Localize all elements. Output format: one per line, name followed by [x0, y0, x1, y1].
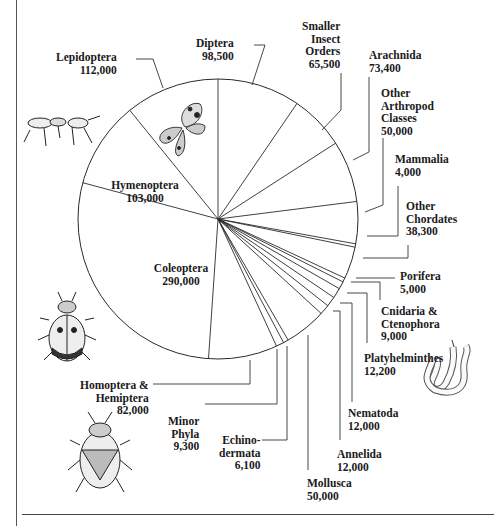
label-mollusca: Mollusca 50,000	[307, 477, 352, 502]
chart-frame: Lepidoptera 112,000 Diptera 98,500 Small…	[0, 0, 494, 526]
leader-echinodermata	[262, 346, 287, 440]
label-other-chordates: Other Chordates 38,300	[406, 200, 457, 238]
leader-other-chordates-2	[363, 245, 408, 258]
leader-other-chordates	[367, 186, 398, 236]
label-smaller-insect-orders: Smaller Insect Orders 65,500	[302, 20, 340, 70]
leader-lepidoptera	[136, 59, 163, 88]
leader-platyhelminthes	[347, 293, 367, 343]
leader-smaller-insect	[322, 73, 341, 130]
leader-nematoda	[340, 303, 352, 402]
leader-annelida	[333, 311, 340, 440]
label-echinodermata: Echino- dermata 6,100	[219, 434, 261, 472]
label-annelida: Annelida 12,000	[337, 448, 382, 473]
pie-slices	[78, 79, 358, 359]
leader-arachnida	[353, 77, 369, 160]
leader-homoptera	[153, 360, 250, 384]
label-other-arthropod-classes: Other Arthropod Classes 50,000	[381, 87, 434, 137]
label-arachnida: Arachnida 73,400	[369, 49, 421, 74]
stink-bug-icon	[68, 412, 132, 492]
label-lepidoptera: Lepidoptera 112,000	[56, 51, 117, 76]
label-homoptera-hemiptera: Homoptera & Hemiptera 82,000	[80, 379, 149, 417]
ladybird-beetle-icon	[38, 292, 96, 361]
leader-other-arthropod	[365, 138, 383, 212]
label-nematoda: Nematoda 12,000	[348, 407, 398, 432]
label-mammalia: Mammalia 4,000	[395, 153, 449, 178]
leader-cnidaria	[351, 282, 380, 300]
label-cnidaria-ctenophora: Cnidaria & Ctenophora 9,000	[381, 305, 440, 343]
leader-diptera	[252, 45, 265, 85]
label-coleoptera: Coleoptera 290,000	[126, 262, 236, 287]
label-platyhelminthes: Platyhelminthes 12,200	[364, 352, 443, 377]
label-hymenoptera: Hymenoptera 103,000	[90, 179, 200, 204]
ant-icon	[24, 116, 100, 146]
label-minor-phyla: Minor Phyla 9,300	[168, 415, 199, 453]
label-diptera: Diptera 98,500	[196, 37, 234, 62]
label-porifera: Porifera 5,000	[400, 270, 441, 295]
